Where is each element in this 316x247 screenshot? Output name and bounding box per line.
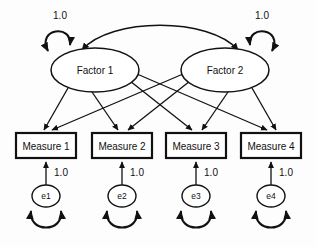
factor1-variance-label: 1.0: [53, 10, 67, 21]
factor2-self-loop-arrow: [250, 31, 275, 51]
error-e3-label: e3: [191, 191, 201, 201]
error-node-e4[interactable]: e4: [257, 185, 285, 207]
factor1-self-loop-arrow: [46, 31, 71, 51]
factor2-variance-label: 1.0: [255, 10, 269, 21]
loading-factor1-to-measure3: [130, 81, 192, 130]
error-node-e3[interactable]: e3: [182, 185, 210, 207]
factor-node-1[interactable]: Factor 1: [51, 48, 139, 92]
e3-self-loop-arrow: [181, 211, 211, 228]
measure-1-label: Measure 1: [22, 141, 70, 152]
measure-node-4[interactable]: Measure 4: [241, 133, 301, 158]
loading-factor2-to-measure2: [128, 81, 190, 130]
e2-loading-label: 1.0: [130, 167, 144, 178]
sem-path-diagram: Measure 1 Measure 2 Measure 3 Measure 4 …: [0, 0, 316, 247]
factor-node-2[interactable]: Factor 2: [181, 48, 269, 92]
e3-loading-label: 1.0: [204, 167, 218, 178]
factor-2-label: Factor 2: [207, 65, 244, 76]
measure-4-label: Measure 4: [247, 141, 295, 152]
e1-loading-label: 1.0: [54, 167, 68, 178]
e4-self-loop-arrow: [256, 211, 286, 228]
error-e4-label: e4: [266, 191, 276, 201]
error-node-e2[interactable]: e2: [108, 185, 136, 207]
error-node-e1[interactable]: e1: [32, 185, 60, 207]
e4-loading-label: 1.0: [279, 167, 293, 178]
error-e2-label: e2: [117, 191, 127, 201]
diagram-canvas: Measure 1 Measure 2 Measure 3 Measure 4 …: [0, 0, 316, 247]
loading-factor2-to-measure4: [252, 88, 276, 130]
factor-1-label: Factor 1: [77, 65, 114, 76]
measure-3-label: Measure 3: [172, 141, 220, 152]
e2-self-loop-arrow: [107, 211, 137, 228]
measure-node-3[interactable]: Measure 3: [166, 133, 226, 158]
factor-covariance-arrow: [82, 25, 238, 50]
measure-node-2[interactable]: Measure 2: [92, 133, 152, 158]
error-e1-label: e1: [41, 191, 51, 201]
measure-2-label: Measure 2: [98, 141, 146, 152]
e1-self-loop-arrow: [31, 211, 61, 228]
loading-factor1-to-measure1: [44, 88, 68, 130]
measure-node-1[interactable]: Measure 1: [16, 133, 76, 158]
